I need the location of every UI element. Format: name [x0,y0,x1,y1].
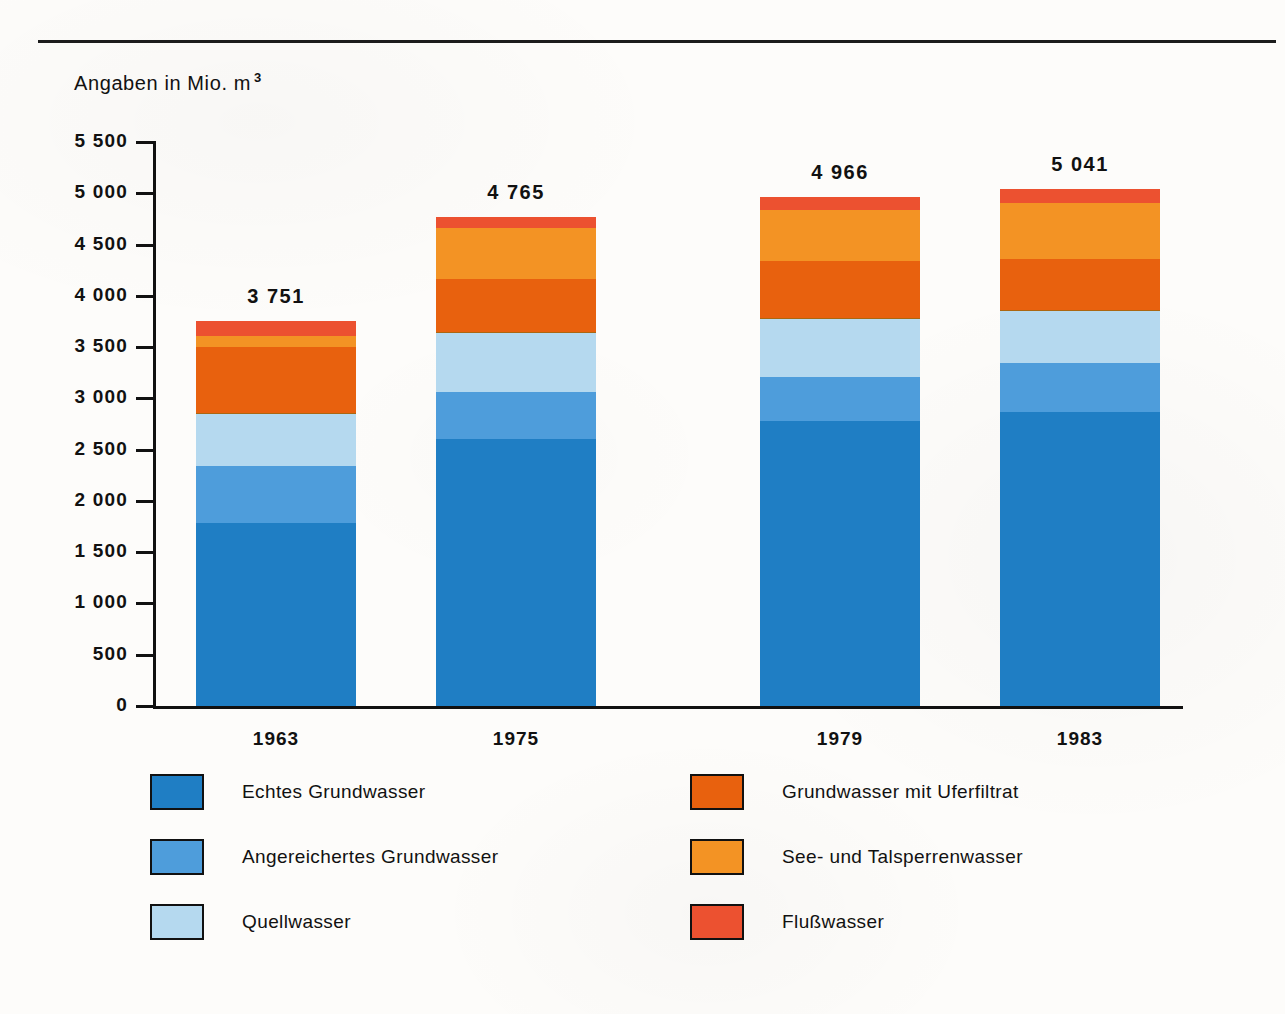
y-axis-tick [136,295,153,298]
bar-segment [760,377,920,422]
bar-segment [436,439,596,706]
y-axis-tick [136,551,153,554]
bar-segment [760,319,920,376]
bar-1979[interactable] [760,197,920,706]
bar-segment [196,336,356,347]
y-axis-tick [136,654,153,657]
bar-1983[interactable] [1000,189,1160,706]
chart-legend: Echtes GrundwasserAngereichertes Grundwa… [150,772,1160,952]
legend-swatch [150,904,204,940]
y-axis-tick-label: 2 500 [50,438,128,460]
y-axis-tick [136,141,153,144]
y-axis-tick [136,602,153,605]
y-axis-tick-label: 500 [50,643,128,665]
bar-segment [760,197,920,210]
legend-item[interactable]: Echtes Grundwasser [150,772,426,812]
bar-segment [436,392,596,439]
y-axis-tick-label: 1 000 [50,591,128,613]
bar-1975[interactable] [436,217,596,706]
y-axis-tick [136,705,153,708]
legend-item[interactable]: See- und Talsperrenwasser [690,837,1023,877]
legend-swatch [690,904,744,940]
bar-segment [436,228,596,279]
y-axis-tick [136,500,153,503]
bar-1963[interactable] [196,321,356,706]
bar-segment [1000,189,1160,203]
bar-total-label: 4 966 [760,161,920,184]
y-axis-tick-label: 5 500 [50,130,128,152]
legend-label: See- und Talsperrenwasser [782,846,1023,868]
y-axis-tick-label: 3 000 [50,386,128,408]
bar-total-label: 3 751 [196,285,356,308]
legend-item[interactable]: Angereichertes Grundwasser [150,837,498,877]
bar-segment [196,523,356,706]
y-axis-tick [136,192,153,195]
y-axis-tick-label: 1 500 [50,540,128,562]
bar-segment [196,347,356,414]
y-axis-tick-label: 0 [50,694,128,716]
legend-item[interactable]: Grundwasser mit Uferfiltrat [690,772,1019,812]
legend-swatch [690,774,744,810]
bar-segment [196,414,356,466]
y-axis-tick [136,449,153,452]
y-axis-tick [136,244,153,247]
bar-segment [436,279,596,334]
y-axis-tick-label: 4 000 [50,284,128,306]
y-axis-tick-label: 5 000 [50,181,128,203]
legend-item[interactable]: Flußwasser [690,902,884,942]
bar-segment [760,421,920,706]
legend-label: Quellwasser [242,911,351,933]
bar-segment [196,321,356,336]
y-axis-tick [136,346,153,349]
legend-label: Grundwasser mit Uferfiltrat [782,781,1019,803]
bar-segment [1000,259,1160,311]
bar-segment [1000,311,1160,363]
legend-swatch [150,774,204,810]
x-axis-label-1979: 1979 [760,728,920,750]
bar-segment [1000,203,1160,259]
bar-segment [436,333,596,391]
bar-segment [760,210,920,261]
legend-swatch [690,839,744,875]
legend-swatch [150,839,204,875]
bar-segment [760,261,920,319]
x-axis-label-1963: 1963 [196,728,356,750]
x-axis-label-1975: 1975 [436,728,596,750]
y-axis-tick [136,397,153,400]
bar-total-label: 4 765 [436,181,596,204]
bar-segment [1000,412,1160,706]
bar-segment [196,466,356,523]
bar-segment [436,217,596,227]
legend-item[interactable]: Quellwasser [150,902,351,942]
bar-total-label: 5 041 [1000,153,1160,176]
y-axis-tick-label: 4 500 [50,233,128,255]
x-axis-line [153,706,1183,709]
bar-segment [1000,363,1160,412]
y-axis-line [153,141,156,709]
legend-label: Angereichertes Grundwasser [242,846,498,868]
legend-label: Echtes Grundwasser [242,781,426,803]
legend-label: Flußwasser [782,911,884,933]
x-axis-label-1983: 1983 [1000,728,1160,750]
y-axis-tick-label: 3 500 [50,335,128,357]
y-axis-tick-label: 2 000 [50,489,128,511]
